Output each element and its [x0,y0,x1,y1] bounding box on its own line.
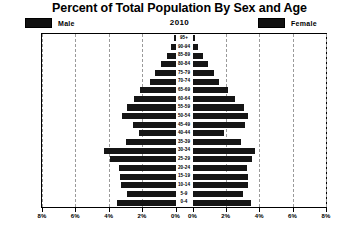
male-bar-cell [42,43,176,52]
male-bar [174,35,176,41]
female-bar-cell [193,43,327,52]
female-bar [193,113,248,119]
male-bar [119,165,176,171]
pyramid-row: 0-4 [42,198,326,207]
male-bar-cell [42,172,176,181]
pyramid-row: 5-9 [42,190,326,199]
male-bar [110,156,175,162]
male-bar [134,96,176,102]
male-bar [140,87,175,93]
x-tick-right-4% [259,208,260,212]
age-group-label: 90-94 [178,45,190,50]
x-tick-left-2% [142,208,143,212]
pyramid-row: 60-64 [42,95,326,104]
age-group-label: 15-19 [178,174,190,179]
x-tick-label-right: 6% [288,213,297,219]
x-tick-left-0% [176,208,177,212]
pyramid-row: 70-74 [42,77,326,86]
female-bar-cell [193,60,327,69]
age-group-label-cell: 60-64 [176,95,193,104]
male-bar [127,191,175,197]
age-group-label: 80-84 [178,62,190,67]
age-group-label: 70-74 [178,79,190,84]
male-bar [117,200,175,206]
male-bar-cell [42,190,176,199]
x-tick-label-left: 6% [71,213,80,219]
age-group-label-cell: 75-79 [176,69,193,78]
female-bar-cell [193,155,327,164]
male-bar [167,53,175,59]
age-group-label-cell: 0-4 [176,198,193,207]
male-bar-cell [42,69,176,78]
chart-legend: Male 2010 Female [0,18,359,30]
female-bar-cell [193,77,327,86]
female-bar-cell [193,95,327,104]
male-bar [171,44,175,50]
male-bar-cell [42,164,176,173]
male-bar-cell [42,112,176,121]
male-bar-cell [42,77,176,86]
female-bar-cell [193,138,327,147]
male-bar [122,113,175,119]
x-tick-label-left: 0% [171,213,180,219]
age-group-label: 40-44 [178,131,190,136]
age-group-label: 65-69 [178,88,190,93]
female-bar [193,104,245,110]
age-group-label: 55-59 [178,105,190,110]
male-bar-cell [42,138,176,147]
female-bar [193,79,220,85]
age-group-label-cell: 45-49 [176,121,193,130]
male-bar-cell [42,155,176,164]
age-group-label-cell: 25-29 [176,155,193,164]
female-bar [193,96,236,102]
female-bar [193,44,199,50]
x-axis: 8%6%4%2%0%0%2%4%6%8% [41,208,327,232]
pyramid-row: 30-34 [42,146,326,155]
pyramid-row: 35-39 [42,138,326,147]
male-bar [133,122,176,128]
age-group-label-cell: 35-39 [176,138,193,147]
female-bar-cell [193,34,327,43]
male-bar-cell [42,181,176,190]
x-tick-label-right: 4% [255,213,264,219]
pyramid-row: 95+ [42,34,326,43]
male-bar [150,79,176,85]
female-bar [193,122,246,128]
x-tick-left-6% [75,208,76,212]
female-bar-cell [193,51,327,60]
female-bar [193,156,252,162]
age-group-label: 0-4 [181,200,188,205]
age-group-label-cell: 5-9 [176,190,193,199]
age-group-label-cell: 15-19 [176,172,193,181]
female-bar [193,165,247,171]
age-group-label: 5-9 [181,192,188,197]
pyramid-row: 75-79 [42,69,326,78]
age-group-label: 95+ [180,36,188,41]
male-bar-cell [42,146,176,155]
age-group-label: 30-34 [178,148,190,153]
female-bar [193,174,248,180]
x-tick-label-right: 8% [321,213,330,219]
male-bar-cell [42,198,176,207]
female-bar-cell [193,103,327,112]
female-bar [193,53,203,59]
female-bar [193,148,256,154]
x-tick-label-left: 8% [37,213,46,219]
age-group-label: 20-24 [178,166,190,171]
female-bar [193,191,243,197]
x-tick-label-left: 2% [138,213,147,219]
page-title: Percent of Total Population By Sex and A… [0,1,359,15]
age-group-label: 45-49 [178,123,190,128]
x-tick-label-right: 2% [221,213,230,219]
age-group-label-cell: 55-59 [176,103,193,112]
gridline-right-8 [326,34,327,207]
age-group-label-cell: 20-24 [176,164,193,173]
x-tick-left-4% [109,208,110,212]
pyramid-row: 65-69 [42,86,326,95]
pyramid-row: 80-84 [42,60,326,69]
x-tick-right-0% [193,208,194,212]
female-bar [193,70,215,76]
pyramid-row: 15-19 [42,172,326,181]
male-bar [126,139,175,145]
male-bar [121,182,175,188]
